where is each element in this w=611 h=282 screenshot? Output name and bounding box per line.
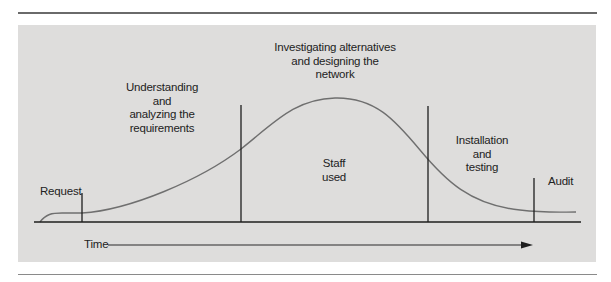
label-line: Staff [322, 157, 346, 171]
time-text: Time [84, 238, 108, 252]
label-line: requirements [126, 122, 198, 136]
label-line: network [274, 68, 395, 82]
investigating-phase-label: Investigating alternatives and designing… [274, 41, 395, 82]
label-line: Investigating alternatives [274, 41, 395, 55]
label-line: analyzing the [126, 108, 198, 122]
audit-label: Audit [548, 175, 573, 189]
time-arrow-head-icon [521, 242, 533, 249]
label-line: Installation [456, 134, 509, 148]
label-line: testing [456, 161, 509, 175]
label-line: and [126, 95, 198, 109]
request-text: Request [40, 185, 81, 199]
time-axis-label: Time [84, 238, 108, 252]
label-line: used [322, 171, 346, 185]
staff-used-label: Staff used [322, 157, 346, 184]
label-line: and designing the [274, 55, 395, 69]
installation-phase-label: Installation and testing [456, 134, 509, 175]
bottom-rule [18, 274, 597, 275]
request-label: Request [40, 185, 81, 199]
label-line: and [456, 148, 509, 162]
label-line: Understanding [126, 81, 198, 95]
audit-text: Audit [548, 175, 573, 189]
understanding-phase-label: Understanding and analyzing the requirem… [126, 81, 198, 135]
